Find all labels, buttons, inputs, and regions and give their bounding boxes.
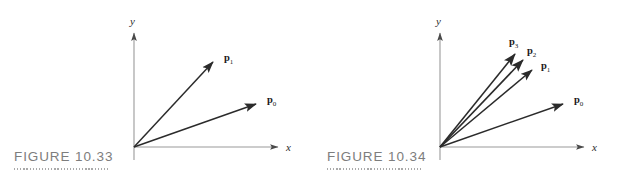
vector-p0-label: p0 xyxy=(574,94,584,108)
vector-p2-label-subscript: 2 xyxy=(533,51,537,59)
vector-p2-arrow xyxy=(440,60,523,147)
y-axis-label: y xyxy=(129,15,135,27)
figure-caption-10-33: FIGURE 10.33 xyxy=(14,149,113,165)
vector-p1-label: p1 xyxy=(541,60,551,74)
figure-panel-10-33: x y p1 p0 FIGURE 10.33 xyxy=(0,0,313,185)
vector-p3-arrow xyxy=(440,54,515,147)
axes-group-left: x y xyxy=(129,15,291,160)
y-axis-label: y xyxy=(435,15,441,27)
vector-p3-label-subscript: 3 xyxy=(515,42,519,50)
figure-panel-10-34: x y p3 p2 p1 p0 FIGURE 10.34 xyxy=(313,0,626,185)
vector-group-right: p3 p2 p1 p0 xyxy=(440,36,584,147)
vector-p0-label: p0 xyxy=(267,94,277,108)
x-axis-label: x xyxy=(591,141,597,153)
vector-p1-label: p1 xyxy=(224,52,234,66)
figure-caption-rule-10-34 xyxy=(327,168,421,170)
vector-p0-label-subscript: 0 xyxy=(580,100,584,108)
vector-p1-arrow xyxy=(134,62,213,147)
vector-p2-label: p2 xyxy=(527,45,537,59)
vector-p3-label: p3 xyxy=(509,36,519,50)
vector-p1-label-subscript: 1 xyxy=(230,58,234,66)
figure-page: x y p1 p0 FIGURE 10.33 xyxy=(0,0,627,185)
x-axis-label: x xyxy=(285,141,291,153)
figure-caption-rule-10-33 xyxy=(14,168,108,170)
vector-group-left: p1 p0 xyxy=(134,52,277,147)
vector-p1-arrow xyxy=(440,70,532,147)
vector-p0-arrow xyxy=(134,104,256,147)
figure-caption-10-34: FIGURE 10.34 xyxy=(327,149,426,165)
vector-p0-label-subscript: 0 xyxy=(273,100,277,108)
vector-p1-label-subscript: 1 xyxy=(547,66,551,74)
vector-p0-arrow xyxy=(440,104,563,147)
axes-group-right: x y xyxy=(435,15,597,160)
